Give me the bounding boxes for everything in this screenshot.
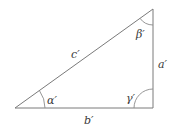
angle-gamma-arc: [134, 89, 153, 108]
label-a: a′: [158, 58, 168, 71]
right-triangle-diagram: c′ a′ b′ α′ β′ γ′: [0, 0, 178, 131]
label-b: b′: [84, 114, 94, 127]
label-c: c′: [71, 48, 80, 61]
label-beta: β′: [135, 28, 145, 41]
angle-beta-arc: [140, 18, 153, 25]
label-alpha: α′: [47, 94, 57, 107]
label-gamma: γ′: [126, 92, 136, 105]
angle-alpha-arc: [39, 91, 45, 109]
